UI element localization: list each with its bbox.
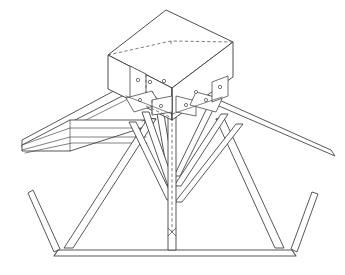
right-outer-raking-strut (291, 192, 318, 252)
bolt-hole (162, 79, 165, 82)
bolt-hole (218, 85, 221, 88)
bolt-hole (159, 104, 162, 107)
bolt-hole (194, 90, 197, 93)
bolt-hole (184, 103, 187, 106)
central-vertical-post (168, 108, 176, 250)
bolt-hole (204, 98, 207, 101)
left-outer-raking-strut (28, 190, 60, 252)
bottom-tie-chord (54, 250, 296, 256)
truss-joint-drawing (0, 0, 345, 275)
bolt-hole (136, 78, 139, 81)
bolt-hole (148, 80, 151, 83)
cube-face-bolt-holes (194, 90, 197, 93)
drawing-svg (0, 0, 345, 275)
